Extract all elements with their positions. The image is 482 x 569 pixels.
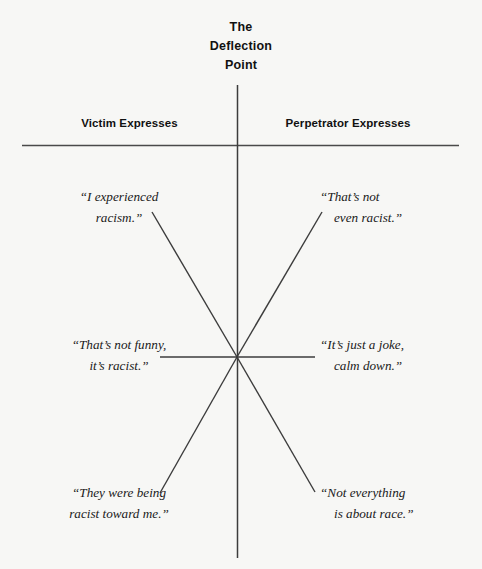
quote-bottom-right-line-2: is about race.” bbox=[320, 503, 450, 524]
deflection-point-diagram: The Deflection Point Victim Expresses Pe… bbox=[0, 0, 482, 569]
spoke-bottom-left bbox=[160, 357, 237, 493]
quote-middle-left-line-1: “That’s not funny, bbox=[44, 334, 194, 355]
quote-bottom-right-line-1: “Not everything bbox=[320, 482, 450, 503]
quote-top-left-line-1: “I experienced bbox=[52, 186, 186, 207]
quote-middle-right: “It’s just a joke, calm down.” bbox=[320, 334, 460, 376]
quote-middle-left-line-2: it’s racist.” bbox=[44, 355, 194, 376]
quote-top-left-line-2: racism.” bbox=[52, 207, 186, 228]
spoke-top-right bbox=[237, 212, 322, 357]
quote-middle-right-line-1: “It’s just a joke, bbox=[320, 334, 460, 355]
quote-top-right-line-1: “That’s not bbox=[320, 186, 440, 207]
quote-middle-left: “That’s not funny, it’s racist.” bbox=[44, 334, 194, 376]
quote-bottom-right: “Not everything is about race.” bbox=[320, 482, 450, 524]
spoke-bottom-right bbox=[237, 357, 315, 492]
quote-bottom-left: “They were being racist toward me.” bbox=[44, 482, 194, 524]
quote-top-right: “That’s not even racist.” bbox=[320, 186, 440, 228]
quote-top-left: “I experienced racism.” bbox=[52, 186, 186, 228]
quote-middle-right-line-2: calm down.” bbox=[320, 355, 460, 376]
quote-bottom-left-line-1: “They were being bbox=[44, 482, 194, 503]
quote-top-right-line-2: even racist.” bbox=[320, 207, 440, 228]
quote-bottom-left-line-2: racist toward me.” bbox=[44, 503, 194, 524]
